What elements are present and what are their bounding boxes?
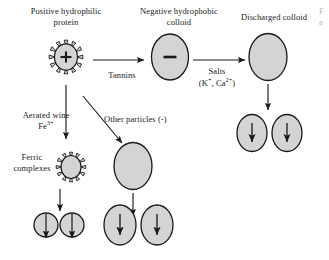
- settling-particle: [237, 115, 267, 152]
- settling-particle: [104, 205, 136, 245]
- settling-particle-group-center: [104, 205, 173, 245]
- particle-positive-hydrophilic-protein: [49, 40, 83, 74]
- settling-particle: [272, 115, 302, 152]
- settling-particle: [60, 213, 84, 238]
- settling-particle-group-right: [237, 115, 302, 152]
- ferric-complex-body: [61, 156, 81, 179]
- settling-particle: [141, 205, 173, 245]
- particle-negative-hydrophobic-colloid: [152, 34, 189, 80]
- aggregated-colloid-body: [114, 143, 152, 190]
- settling-particle: [34, 213, 58, 238]
- particle-aggregated-colloid: [114, 143, 152, 190]
- arrow-other-particles: [83, 96, 122, 143]
- discharged-colloid-body: [249, 34, 287, 81]
- diagram-canvas: Positive hydrophilic protein Negative hy…: [0, 0, 329, 260]
- particle-discharged-colloid: [249, 34, 287, 81]
- particle-ferric-complexes: [56, 152, 86, 182]
- diagram-vector-layer: [0, 0, 329, 260]
- settling-particle-group-left: [34, 213, 84, 238]
